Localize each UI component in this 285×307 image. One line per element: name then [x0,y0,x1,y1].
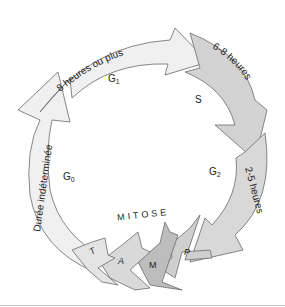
stage-label-m: M [149,260,157,270]
phase-label-g0: G0 [63,171,75,183]
phase-label-g2: G2 [209,166,221,178]
stage-label-p: P [184,247,190,257]
phase-arrow-g1 [40,28,208,112]
stage-label-a: A [117,256,124,266]
phase-label-s: S [195,94,202,105]
phase-label-g1: G1 [108,73,120,85]
mitosis-label: MITOSE [117,207,170,222]
cell-cycle-diagram: 8 heures ou plus 6-8 heures 2-5 heures D… [0,0,285,307]
bottom-divider [0,305,285,306]
